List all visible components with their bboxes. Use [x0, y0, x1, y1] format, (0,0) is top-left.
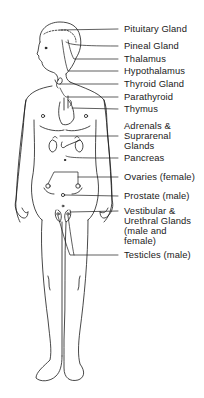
label-text: Ovaries (female)	[124, 171, 195, 182]
pelvic-organs	[44, 184, 82, 222]
label-text: Glands	[124, 141, 171, 151]
heart	[59, 96, 74, 125]
label-thyroid: Thyroid Gland	[124, 79, 184, 89]
label-text: Pancreas	[124, 152, 164, 163]
label-testicles: Testicles (male)	[124, 250, 191, 260]
label-ovaries: Ovaries (female)	[124, 172, 195, 182]
label-text: Hypothalamus	[124, 65, 185, 76]
label-parathyroid: Parathyroid	[124, 92, 173, 102]
legs	[36, 220, 88, 381]
label-pancreas: Pancreas	[124, 153, 164, 163]
label-text: Testicles (male)	[124, 249, 191, 260]
label-text: Pineal Gland	[124, 40, 179, 51]
head	[37, 22, 81, 82]
label-text: female)	[124, 236, 191, 246]
neck	[55, 78, 62, 88]
label-pituitary: Pituitary Gland	[124, 24, 187, 34]
abdominal-organs	[49, 137, 83, 153]
label-text: Thyroid Gland	[124, 78, 184, 89]
label-text: Thalamus	[124, 53, 166, 64]
label-text: Thymus	[124, 103, 158, 114]
label-hypothalamus: Hypothalamus	[124, 66, 185, 76]
label-text: Prostate (male)	[124, 190, 190, 201]
label-text: Pituitary Gland	[124, 23, 187, 34]
label-text: Parathyroid	[124, 91, 173, 102]
eye-icon	[45, 47, 47, 49]
label-thymus: Thymus	[124, 104, 158, 114]
label-vestibular: Vestibular & Urethral Glands (male and f…	[124, 206, 191, 246]
label-adrenals: Adrenals & Suprarenal Glands	[124, 121, 171, 151]
arms	[15, 100, 113, 218]
label-thalamus: Thalamus	[124, 54, 166, 64]
label-pineal: Pineal Gland	[124, 41, 179, 51]
label-prostate: Prostate (male)	[124, 191, 190, 201]
